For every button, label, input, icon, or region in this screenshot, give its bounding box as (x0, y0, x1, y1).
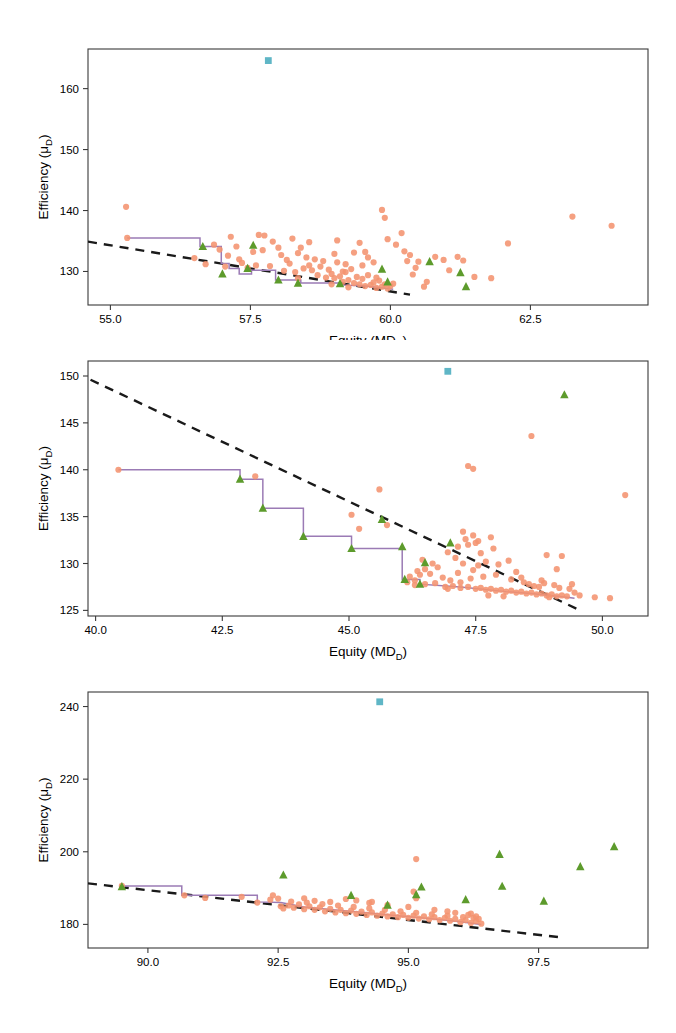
data-point-circle (405, 904, 411, 910)
data-point-circle (440, 574, 446, 580)
series-solutions (115, 433, 628, 601)
data-point-circle (115, 467, 121, 473)
data-point-circle (371, 259, 377, 265)
x-axis-title: Equity (MDD) (329, 976, 407, 994)
data-point-circle (373, 285, 379, 291)
data-point-triangle (249, 241, 257, 249)
data-point-circle (505, 240, 511, 246)
data-point-circle (427, 571, 433, 577)
series-solutions (123, 204, 615, 292)
theoretical-bound-line (91, 380, 583, 612)
data-point-circle (569, 581, 575, 587)
y-tick-label: 140 (60, 205, 79, 217)
data-point-circle (447, 577, 453, 583)
data-point-circle (513, 569, 519, 575)
y-axis-title: Efficiency (μD) (36, 446, 54, 531)
data-point-circle (468, 910, 474, 916)
x-tick-label: 40.0 (84, 624, 106, 636)
data-point-circle (236, 256, 242, 262)
data-point-circle (495, 561, 501, 567)
data-point-circle (217, 246, 223, 252)
data-point-circle (348, 512, 354, 518)
data-layer (88, 698, 618, 937)
data-point-circle (455, 544, 461, 550)
data-point-circle (506, 558, 512, 564)
data-point-circle (254, 900, 260, 906)
data-point-circle (393, 242, 399, 248)
data-point-circle (430, 560, 436, 566)
data-point-circle (359, 262, 365, 268)
data-point-circle (536, 584, 542, 590)
data-point-circle (460, 529, 466, 535)
data-point-circle (362, 283, 368, 289)
data-point-circle (422, 566, 428, 572)
data-point-circle (470, 532, 476, 538)
data-point-circle (488, 275, 494, 281)
data-point-circle (450, 583, 456, 589)
data-point-circle (424, 279, 430, 285)
data-point-circle (485, 592, 491, 598)
data-point-circle (609, 223, 615, 229)
data-point-circle (288, 898, 294, 904)
pareto-step-line (118, 470, 574, 598)
data-point-circle (468, 575, 474, 581)
data-point-circle (270, 892, 276, 898)
y-tick-label: 145 (60, 417, 79, 429)
data-point-circle (500, 593, 506, 599)
x-tick-label: 60.0 (379, 313, 401, 325)
data-point-circle (607, 595, 613, 601)
y-axis-title: Efficiency (μD) (36, 778, 54, 863)
x-tick-label: 55.0 (99, 313, 121, 325)
data-point-circle (407, 574, 413, 580)
data-point-circle (457, 579, 463, 585)
x-tick-label: 42.5 (211, 624, 233, 636)
data-point-circle (465, 542, 471, 548)
y-tick-label: 220 (60, 773, 79, 785)
data-point-circle (576, 592, 582, 598)
data-point-circle (191, 255, 197, 261)
y-tick-label: 200 (60, 846, 79, 858)
data-point-circle (317, 264, 323, 270)
data-point-circle (312, 256, 318, 262)
data-point-circle (470, 466, 476, 472)
series-reference-point (376, 698, 383, 705)
y-tick-label: 125 (60, 604, 79, 616)
data-point-circle (421, 913, 427, 919)
data-point-circle (452, 555, 458, 561)
data-point-circle (327, 906, 333, 912)
data-point-circle (432, 254, 438, 260)
data-point-circle (592, 594, 598, 600)
data-point-circle (343, 261, 349, 267)
data-point-circle (478, 550, 484, 556)
data-point-triangle (378, 264, 386, 272)
data-point-circle (203, 261, 209, 267)
data-point-triangle (347, 891, 355, 899)
data-point-triangle (462, 282, 470, 290)
data-point-circle (564, 593, 570, 599)
data-point-circle (508, 576, 514, 582)
x-tick-label: 47.5 (464, 624, 486, 636)
data-point-circle (225, 253, 231, 259)
data-point-circle (287, 260, 293, 266)
data-point-circle (228, 234, 234, 240)
data-point-circle (544, 552, 550, 558)
y-tick-label: 150 (60, 144, 79, 156)
data-point-circle (312, 898, 318, 904)
data-point-circle (452, 916, 458, 922)
data-point-circle (309, 267, 315, 273)
data-point-circle (211, 242, 217, 248)
data-point-circle (475, 562, 481, 568)
data-point-circle (444, 908, 450, 914)
x-tick-label: 45.0 (338, 624, 360, 636)
data-point-circle (315, 272, 321, 278)
data-point-triangle (279, 870, 287, 878)
data-point-circle (275, 896, 281, 902)
plot-area-2: 40.042.545.047.550.0125130135140145150Eq… (0, 340, 676, 676)
panel-1: 55.057.560.062.5130140150160Equity (MDD)… (0, 0, 676, 340)
y-tick-label: 130 (60, 558, 79, 570)
data-point-circle (365, 254, 371, 260)
data-point-circle (410, 271, 416, 277)
data-point-circle (319, 901, 325, 907)
data-point-triangle (610, 842, 618, 850)
data-point-circle (331, 275, 337, 281)
